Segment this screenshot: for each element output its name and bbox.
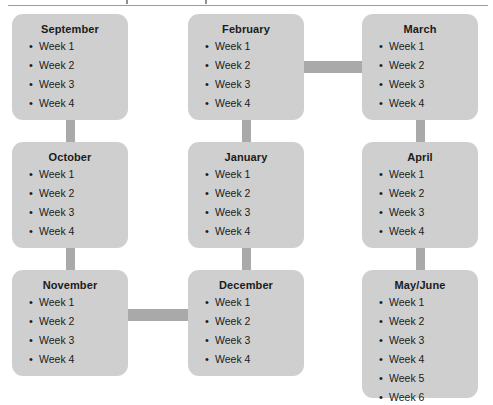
week-item: Week 3 (205, 331, 304, 350)
week-list-december: Week 1Week 2Week 3Week 4 (188, 293, 304, 369)
month-title-november: November (12, 279, 128, 291)
month-box-march[interactable]: MarchWeek 1Week 2Week 3Week 4 (362, 14, 478, 120)
week-list-february: Week 1Week 2Week 3Week 4 (188, 37, 304, 113)
week-item: Week 2 (29, 184, 128, 203)
month-box-october[interactable]: OctoberWeek 1Week 2Week 3Week 4 (12, 142, 128, 248)
month-title-december: December (188, 279, 304, 291)
week-item: Week 2 (379, 56, 478, 75)
week-list-january: Week 1Week 2Week 3Week 4 (188, 165, 304, 241)
week-item: Week 3 (29, 75, 128, 94)
month-title-september: September (12, 23, 128, 35)
month-title-may-june: May/June (362, 279, 478, 291)
week-list-october: Week 1Week 2Week 3Week 4 (12, 165, 128, 241)
week-item: Week 4 (29, 94, 128, 113)
week-item: Week 2 (205, 56, 304, 75)
month-box-december[interactable]: DecemberWeek 1Week 2Week 3Week 4 (188, 270, 304, 376)
week-item: Week 1 (29, 165, 128, 184)
week-item: Week 3 (205, 203, 304, 222)
month-box-january[interactable]: JanuaryWeek 1Week 2Week 3Week 4 (188, 142, 304, 248)
month-title-february: February (188, 23, 304, 35)
cut-off-text-descender-1 (126, 0, 128, 4)
week-item: Week 1 (379, 165, 478, 184)
month-title-march: March (362, 23, 478, 35)
cut-off-text-descender-2 (205, 0, 207, 4)
week-item: Week 2 (379, 184, 478, 203)
week-item: Week 1 (205, 165, 304, 184)
connector-november-to-december (128, 309, 188, 321)
week-item: Week 1 (379, 37, 478, 56)
week-item: Week 4 (205, 94, 304, 113)
month-title-april: April (362, 151, 478, 163)
week-item: Week 3 (205, 75, 304, 94)
week-item: Week 2 (29, 56, 128, 75)
week-item: Week 6 (379, 388, 478, 405)
week-item: Week 1 (205, 293, 304, 312)
week-item: Week 3 (379, 203, 478, 222)
week-item: Week 4 (379, 94, 478, 113)
month-title-october: October (12, 151, 128, 163)
week-list-may-june: Week 1Week 2Week 3Week 4Week 5Week 6 (362, 293, 478, 405)
week-item: Week 4 (29, 350, 128, 369)
month-title-january: January (188, 151, 304, 163)
week-item: Week 3 (29, 331, 128, 350)
month-box-november[interactable]: NovemberWeek 1Week 2Week 3Week 4 (12, 270, 128, 376)
week-item: Week 2 (29, 312, 128, 331)
week-item: Week 3 (379, 75, 478, 94)
week-item: Week 4 (379, 222, 478, 241)
week-item: Week 4 (379, 350, 478, 369)
week-item: Week 4 (29, 222, 128, 241)
week-item: Week 3 (379, 331, 478, 350)
month-box-may-june[interactable]: May/JuneWeek 1Week 2Week 3Week 4Week 5We… (362, 270, 478, 398)
week-item: Week 1 (29, 37, 128, 56)
week-list-november: Week 1Week 2Week 3Week 4 (12, 293, 128, 369)
week-item: Week 2 (205, 312, 304, 331)
week-item: Week 1 (29, 293, 128, 312)
week-item: Week 2 (379, 312, 478, 331)
week-item: Week 5 (379, 369, 478, 388)
connector-february-to-march (304, 61, 362, 73)
week-item: Week 1 (379, 293, 478, 312)
week-list-september: Week 1Week 2Week 3Week 4 (12, 37, 128, 113)
month-box-september[interactable]: SeptemberWeek 1Week 2Week 3Week 4 (12, 14, 128, 120)
week-list-march: Week 1Week 2Week 3Week 4 (362, 37, 478, 113)
month-box-april[interactable]: AprilWeek 1Week 2Week 3Week 4 (362, 142, 478, 248)
week-list-april: Week 1Week 2Week 3Week 4 (362, 165, 478, 241)
week-item: Week 2 (205, 184, 304, 203)
week-item: Week 1 (205, 37, 304, 56)
week-item: Week 3 (29, 203, 128, 222)
week-item: Week 4 (205, 350, 304, 369)
month-box-february[interactable]: FebruaryWeek 1Week 2Week 3Week 4 (188, 14, 304, 120)
header-divider-rule (8, 5, 488, 6)
week-item: Week 4 (205, 222, 304, 241)
